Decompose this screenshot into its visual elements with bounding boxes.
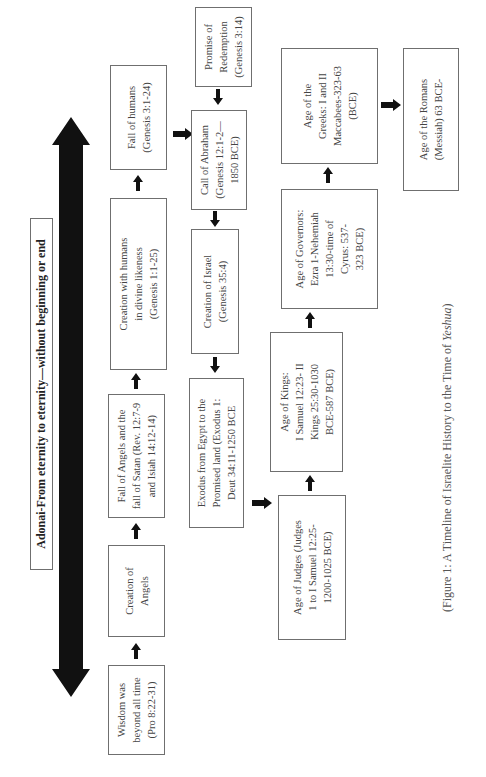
arrow-right-icon — [131, 373, 141, 389]
figure-caption: (Figure 1: A Timeline of Israelite Histo… — [440, 303, 455, 612]
arrow-left-icon — [213, 89, 223, 105]
box-age-judges: Age of Judges (Judges1 to I Samuel 12:25… — [278, 495, 346, 640]
arrow-down-icon — [381, 99, 401, 111]
box-creation-israel: Creation of Israel(Genesis 35:4) — [191, 229, 239, 354]
box-promise-redemption: Promise ofRedemption(Genesis 3:14) — [195, 7, 252, 87]
arrow-right-icon — [323, 167, 333, 183]
box-age-greeks: Age of theGreeks: I and IIMaccabees-323-… — [281, 48, 378, 164]
box-exodus: Exodus from Egypt to thePromised land (E… — [189, 378, 244, 528]
eternity-header: Adonai-From eternity to eternity—without… — [30, 218, 53, 570]
arrow-down-icon — [252, 497, 272, 509]
arrow-right-icon — [131, 643, 141, 659]
box-creation-angels: Creation ofAngels — [108, 545, 165, 637]
box-age-kings: Age of Kings:I Samuel 12:23- IIKings 25:… — [270, 332, 343, 472]
arrow-down-icon — [173, 128, 193, 140]
box-fall-angels: Fall of Angels and thefall of Satan (Rev… — [108, 394, 165, 518]
arrow-left-icon — [210, 211, 220, 227]
box-wisdom: Wisdom wasbeyond all time(Pro 8:22-31) — [108, 665, 165, 755]
arrow-right-icon — [133, 175, 143, 191]
box-call-abraham: Call of Abraham(Genesis 12:1-2—1850 BCE) — [191, 110, 247, 210]
box-age-governors: Age of Governors:Ezra 1-Nehemiah13:30-ti… — [281, 189, 378, 309]
double-headed-arrow-icon — [52, 117, 90, 697]
box-fall-humans: Fall of humans(Genesis 3:1-24) — [110, 65, 167, 170]
arrow-right-icon — [305, 475, 315, 491]
timeline-figure: Adonai-From eternity to eternity—without… — [0, 0, 486, 777]
box-creation-humans: Creation with humansin divine likeness(G… — [110, 198, 167, 370]
arrow-left-icon — [210, 357, 220, 373]
box-age-romans: Age of the Romans(Messiah) 63 BCE- — [403, 48, 459, 191]
arrow-right-icon — [131, 523, 141, 539]
arrow-right-icon — [305, 312, 315, 328]
